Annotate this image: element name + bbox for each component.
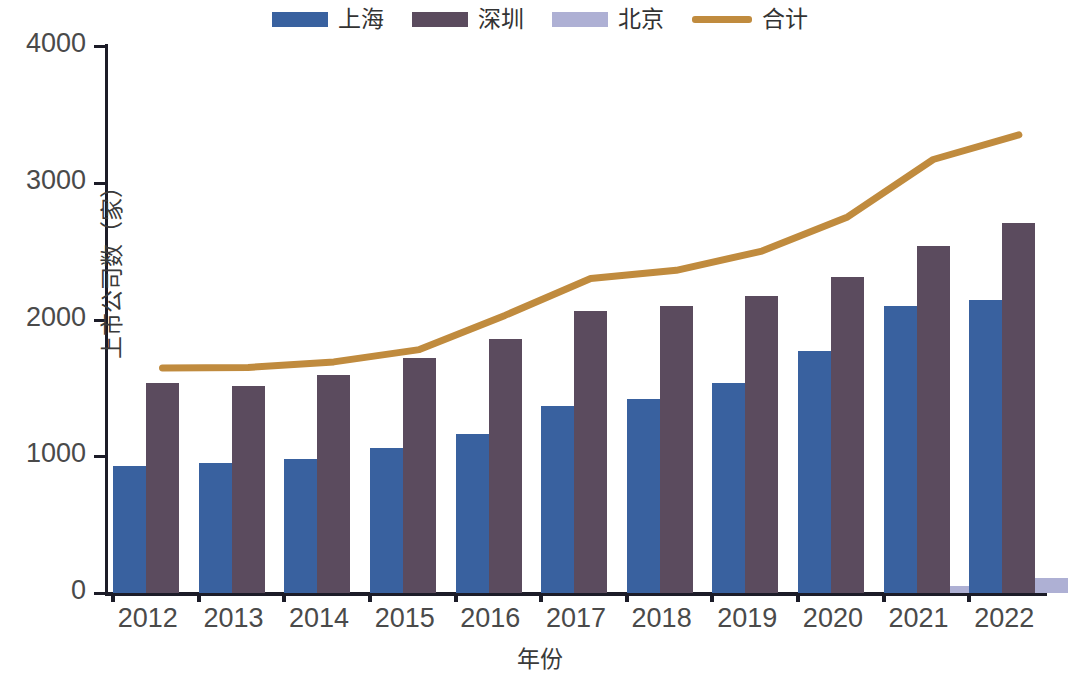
legend-swatch-shanghai [272,12,328,27]
y-tick-label: 2000 [0,302,86,333]
legend-swatch-shenzhen [412,12,468,27]
legend-item-total: 合计 [692,8,808,31]
x-axis-title: 年份 [0,640,1079,674]
x-tick [539,592,543,602]
legend-item-shenzhen: 深圳 [412,8,524,31]
x-tick-label: 2014 [274,603,364,634]
y-tick-label: 1000 [0,438,86,469]
x-tick-label: 2018 [617,603,707,634]
x-tick [454,592,458,602]
y-axis-title: 上市公司数（家） [93,137,127,397]
legend-label-shenzhen: 深圳 [478,8,524,31]
x-tick [197,592,201,602]
x-tick-label: 2013 [188,603,278,634]
line-series-layer [105,46,1047,593]
x-tick [710,592,714,602]
y-tick-label: 4000 [0,28,86,59]
x-tick-label: 2012 [103,603,193,634]
legend-label-shanghai: 上海 [338,8,384,31]
x-tick [368,592,372,602]
x-tick-label: 2022 [959,603,1049,634]
total-line-svg [105,46,1047,593]
legend-item-beijing: 北京 [552,8,664,31]
y-tick-label: 3000 [0,165,86,196]
x-tick-label: 2019 [702,603,792,634]
x-tick [282,592,286,602]
legend-item-shanghai: 上海 [272,8,384,31]
x-tick [882,592,886,602]
legend-label-total: 合计 [762,8,808,31]
x-tick [111,592,115,602]
x-tick [796,592,800,602]
x-tick-label: 2020 [788,603,878,634]
x-tick [625,592,629,602]
total-line-path [163,135,1019,368]
x-tick-label: 2021 [874,603,964,634]
x-tick-label: 2017 [531,603,621,634]
legend-swatch-beijing [552,12,608,27]
chart-legend: 上海 深圳 北京 合计 [0,8,1079,31]
x-tick [967,592,971,602]
legend-label-beijing: 北京 [618,8,664,31]
x-tick-label: 2016 [445,603,535,634]
legend-line-total [692,16,752,23]
y-tick-label: 0 [0,575,86,606]
x-tick-label: 2015 [360,603,450,634]
